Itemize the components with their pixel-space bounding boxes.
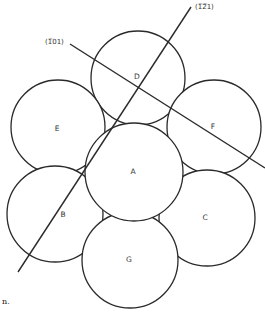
- atom-label-d: D: [134, 72, 140, 81]
- atom-label-e: E: [55, 124, 60, 133]
- atom-packing-diagram: DEFBCGA (1̅2̅1)(1̅01) n.: [0, 0, 265, 312]
- plane-101-label: (1̅01): [45, 38, 64, 46]
- atom-label-c: C: [202, 213, 207, 222]
- caption-fragment: n.: [2, 297, 10, 306]
- atom-label-g: G: [126, 255, 132, 264]
- atom-label-b: B: [60, 210, 65, 219]
- atom-label-a: A: [130, 167, 136, 176]
- atom-label-f: F: [211, 122, 215, 131]
- plane-121-label: (1̅2̅1): [195, 3, 214, 11]
